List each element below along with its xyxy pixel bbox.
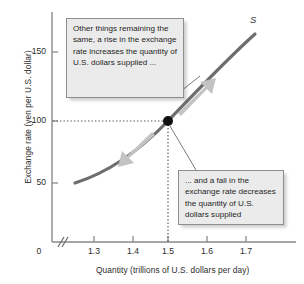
leader-line-fall [170, 126, 196, 170]
x-tick-label-14: 1.4 [120, 246, 146, 256]
callout-rise-in-exchange-rate: Other things remaining the same, a rise … [66, 18, 184, 98]
x-tick-label-17: 1.7 [233, 246, 259, 256]
x-tick-label-13: 1.3 [81, 246, 107, 256]
y-tick-label-150: 150 [20, 46, 46, 56]
x-tick-label-15: 1.5 [155, 246, 181, 256]
equilibrium-point [163, 116, 173, 126]
x-tick-label-0: 0 [26, 246, 52, 256]
y-tick-label-100: 100 [20, 115, 46, 125]
arrow-down-left-icon [118, 132, 155, 167]
supply-curve-label: S [250, 14, 256, 25]
figure-supply-of-us-dollars: Exchange rate (yen per U.S. dollar) Quan… [0, 0, 304, 284]
x-tick-label-16: 1.6 [194, 246, 220, 256]
x-axis-title: Quantity (trillions of U.S. dollars per … [96, 265, 296, 275]
y-tick-label-50: 50 [20, 177, 46, 187]
callout-fall-in-exchange-rate: ... and a fall in the exchange rate decr… [178, 170, 284, 225]
